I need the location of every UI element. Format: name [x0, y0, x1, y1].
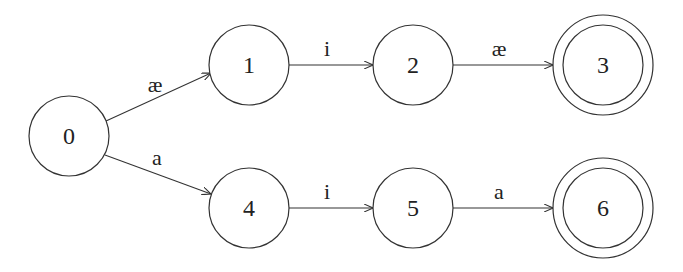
state-2: 2 [373, 25, 453, 105]
state-6-accepting: 6 [553, 158, 653, 258]
edge-4-5: i [289, 179, 373, 208]
edge-label-5-6: a [494, 179, 504, 204]
state-label-0: 0 [63, 123, 75, 149]
state-label-2: 2 [407, 52, 419, 78]
state-label-5: 5 [407, 195, 419, 221]
edge-0-4: a [105, 145, 211, 194]
fsa-diagram: æ i æ a i a 0 1 2 3 4 5 [0, 0, 683, 272]
state-label-6: 6 [597, 195, 609, 221]
state-3-accepting: 3 [553, 15, 653, 115]
edge-0-1: æ [106, 72, 211, 121]
state-0: 0 [29, 96, 109, 176]
edge-label-0-1: æ [148, 72, 163, 97]
state-1: 1 [209, 25, 289, 105]
edge-label-1-2: i [324, 36, 330, 61]
state-4: 4 [209, 168, 289, 248]
state-label-3: 3 [597, 52, 609, 78]
edge-label-4-5: i [324, 179, 330, 204]
edge-5-6: a [453, 179, 553, 208]
edge-label-0-4: a [152, 145, 162, 170]
edge-label-2-3: æ [492, 36, 507, 61]
edge-2-3: æ [453, 36, 553, 65]
state-label-1: 1 [243, 52, 255, 78]
edge-1-2: i [289, 36, 373, 65]
state-5: 5 [373, 168, 453, 248]
state-label-4: 4 [243, 195, 255, 221]
